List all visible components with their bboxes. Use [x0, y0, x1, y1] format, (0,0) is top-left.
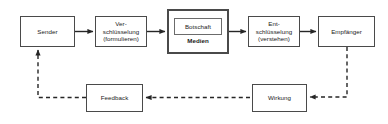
communication-model-diagram: Sender Ver- schlüsselung (formulieren) B…: [0, 0, 388, 124]
node-medium[interactable]: Botschaft Medien: [167, 9, 229, 54]
node-encoding-label-line2: schlüsselung: [103, 28, 139, 36]
node-receiver-label: Empfänger: [331, 28, 362, 36]
node-encoding-label-line3: (formulieren): [103, 35, 139, 43]
node-message-box[interactable]: Botschaft: [174, 18, 222, 35]
node-decoding-label-line2: schlüsselung: [256, 28, 292, 36]
node-encoding-label-line1: Ver-: [115, 20, 127, 28]
connector-receiver-to-effect: [310, 47, 347, 97]
node-decoding-label-line3: (verstehen): [258, 35, 290, 43]
node-sender[interactable]: Sender: [20, 16, 75, 47]
connector-feedback-to-sender: [38, 50, 86, 98]
node-message-label: Botschaft: [185, 23, 211, 31]
node-receiver[interactable]: Empfänger: [318, 16, 375, 47]
node-effect-label: Wirkung: [268, 94, 291, 102]
node-effect[interactable]: Wirkung: [252, 84, 307, 112]
node-medium-label: Medien: [187, 37, 209, 45]
node-feedback-label: Feedback: [101, 94, 129, 102]
node-encoding[interactable]: Ver- schlüsselung (formulieren): [95, 16, 147, 47]
node-decoding[interactable]: Ent- schlüsselung (verstehen): [248, 16, 300, 47]
node-decoding-label-line1: Ent-: [268, 20, 280, 28]
node-sender-label: Sender: [37, 28, 57, 36]
node-feedback[interactable]: Feedback: [86, 84, 143, 112]
